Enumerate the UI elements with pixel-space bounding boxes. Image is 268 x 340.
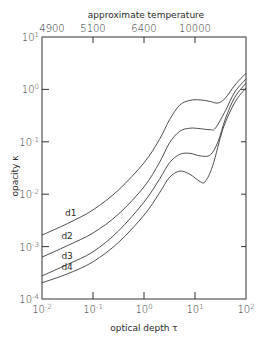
curve-labels: d1d2d3d4 [61,208,76,272]
x-tick-label: 10-1 [83,303,103,315]
x-tick-label: 10-2 [32,303,52,315]
x-tick-label: 101 [186,303,203,315]
top-axis-ticks: 49005100640010000 [39,23,211,43]
x-tick-label: 100 [135,303,152,315]
opacity-vs-optical-depth-chart: approximate temperature 4900510064001000… [0,0,268,340]
y-tick-label: 10-2 [19,188,39,200]
y-tick-label: 100 [22,83,39,95]
x-tick-label: 102 [237,303,254,315]
temperature-label: 4900 [39,23,64,34]
curve-label-d3: d3 [61,251,72,261]
curve-label-d4: d4 [61,262,73,272]
y-tick-label: 10-1 [19,136,39,148]
y-tick-label: 101 [22,31,39,43]
y-axis-title: opacity κ [10,155,20,197]
curve-label-d1: d1 [65,208,76,218]
x-axis-ticks: 10-210-1100101102 [32,292,254,315]
temperature-label: 5100 [80,23,105,34]
curve-label-d2: d2 [61,231,72,241]
y-tick-label: 10-3 [19,241,39,253]
curve-d3 [42,83,246,276]
x-axis-title: optical depth τ [110,323,178,333]
temperature-label: 6400 [131,23,156,34]
temperature-label: 10000 [179,23,211,34]
top-axis-title: approximate temperature [88,10,205,20]
